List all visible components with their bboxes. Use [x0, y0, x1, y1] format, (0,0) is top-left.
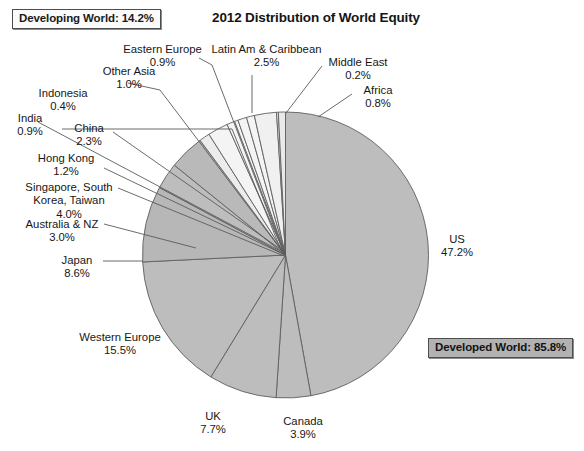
slice-label-western-europe: Western Europe 15.5%	[60, 331, 180, 358]
slice-label-uk-pct: 7.7%	[188, 423, 238, 436]
slice-label-india-pct: 0.9%	[4, 125, 56, 138]
slice-label-india: India 0.9%	[4, 112, 56, 139]
slice-label-western-europe-pct: 15.5%	[60, 344, 180, 357]
slice-label-china-name: China	[74, 122, 104, 134]
slice-label-middle-east: Middle East 0.2%	[318, 56, 398, 83]
leader-line-africa	[318, 94, 352, 117]
slice-label-indonesia: Indonesia 0.4%	[23, 87, 103, 114]
slice-label-china: China 2.3%	[58, 122, 120, 149]
slice-label-sskt: Singapore, South Korea, Taiwan 4.0%	[10, 181, 128, 221]
slice-label-hong-kong-pct: 1.2%	[22, 165, 110, 178]
developed-world-callout: Developed World: 85.8%	[428, 338, 573, 358]
slice-label-latin-am-pct: 2.5%	[208, 56, 325, 69]
slice-label-sskt-name-line2: Korea, Taiwan	[10, 194, 128, 207]
slice-label-africa-name: Africa	[364, 84, 393, 96]
slice-label-hong-kong: Hong Kong 1.2%	[22, 152, 110, 179]
slice-label-africa-pct: 0.8%	[348, 97, 408, 110]
slice-label-canada: Canada 3.9%	[272, 415, 334, 442]
leader-line-middle-east	[286, 66, 322, 113]
slice-label-canada-name: Canada	[283, 415, 323, 427]
pie-slice-us[interactable]	[286, 112, 429, 396]
developing-world-callout: Developing World: 14.2%	[12, 9, 161, 29]
slice-label-hong-kong-name: Hong Kong	[38, 152, 95, 164]
slice-label-australia-nz-pct: 3.0%	[12, 231, 112, 244]
slice-label-uk: UK 7.7%	[188, 410, 238, 437]
slice-label-other-asia-name: Other Asia	[103, 65, 156, 77]
slice-label-japan: Japan 8.6%	[48, 254, 106, 281]
slice-label-us-pct: 47.2%	[430, 246, 484, 259]
slice-label-latin-am-name: Latin Am & Caribbean	[212, 43, 322, 55]
slice-label-africa: Africa 0.8%	[348, 84, 408, 111]
slice-label-india-name: India	[18, 112, 43, 124]
slice-label-canada-pct: 3.9%	[272, 428, 334, 441]
slice-label-us-name: US	[449, 233, 465, 245]
slice-label-middle-east-name: Middle East	[328, 56, 387, 68]
slice-label-japan-name: Japan	[62, 254, 93, 266]
pie-slices	[143, 112, 429, 398]
slice-label-indonesia-name: Indonesia	[39, 87, 88, 99]
slice-label-australia-nz: Australia & NZ 3.0%	[12, 218, 112, 245]
slice-label-sskt-name-line1: Singapore, South	[25, 181, 112, 193]
slice-label-us: US 47.2%	[430, 233, 484, 260]
slice-label-japan-pct: 8.6%	[48, 267, 106, 280]
slice-label-latin-am: Latin Am & Caribbean 2.5%	[208, 43, 325, 70]
slice-label-australia-nz-name: Australia & NZ	[26, 218, 99, 230]
slice-label-uk-name: UK	[205, 410, 221, 422]
slice-label-china-pct: 2.3%	[58, 135, 120, 148]
chart-title: 2012 Distribution of World Equity	[196, 10, 436, 25]
chart-canvas: Developing World: 14.2% Developed World:…	[0, 0, 584, 451]
slice-label-eastern-europe-name: Eastern Europe	[123, 43, 202, 55]
slice-label-middle-east-pct: 0.2%	[318, 69, 398, 82]
slice-label-western-europe-name: Western Europe	[79, 331, 160, 343]
